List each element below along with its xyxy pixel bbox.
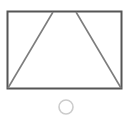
rectangle-outline: [8, 12, 122, 89]
shape-figure-canvas: [0, 0, 130, 119]
figure-container: Rectangle with inscribed triangle: [0, 0, 130, 119]
circle-outline[interactable]: [59, 100, 73, 114]
